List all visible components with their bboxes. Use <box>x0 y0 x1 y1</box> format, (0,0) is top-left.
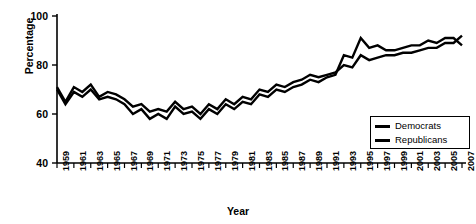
x-tick-label-1981: 1981 <box>247 151 257 171</box>
x-tick-label-2001: 2001 <box>415 151 425 171</box>
x-tick-label-1995: 1995 <box>365 151 375 171</box>
x-tick-label-2007: 2007 <box>466 151 476 171</box>
x-tick-label-1965: 1965 <box>112 151 122 171</box>
x-tick-label-1979: 1979 <box>230 151 240 171</box>
x-tick-label-1967: 1967 <box>129 151 139 171</box>
x-tick-label-1989: 1989 <box>314 151 324 171</box>
legend-label-democrats: Democrats <box>395 121 441 131</box>
x-tick-label-1973: 1973 <box>179 151 189 171</box>
chart-legend: Democrats Republicans <box>370 116 470 149</box>
x-tick-label-1971: 1971 <box>162 151 172 171</box>
x-tick-label-2005: 2005 <box>449 151 459 171</box>
x-tick-label-1987: 1987 <box>297 151 307 171</box>
x-tick-label-1983: 1983 <box>264 151 274 171</box>
legend-swatch-icon <box>375 125 390 128</box>
data-series-layer <box>57 36 462 119</box>
x-tick-label-1959: 1959 <box>61 151 71 171</box>
y-tick-label-40: 40 <box>22 157 48 169</box>
legend-swatch-icon <box>375 139 390 142</box>
x-tick-label-1969: 1969 <box>145 151 155 171</box>
x-tick-label-1997: 1997 <box>382 151 392 171</box>
legend-item-democrats: Democrats <box>375 119 465 133</box>
y-tick-label-60: 60 <box>22 108 48 120</box>
x-tick-label-1975: 1975 <box>196 151 206 171</box>
x-axis-title: Year <box>0 205 476 217</box>
x-tick-label-1985: 1985 <box>280 151 290 171</box>
legend-label-republicans: Republicans <box>395 135 447 145</box>
x-tick-label-1963: 1963 <box>95 151 105 171</box>
y-axis-title: Percentage <box>23 0 35 101</box>
line-chart: 100 80 60 40 195919611963196519671969197… <box>0 0 476 224</box>
plot-area <box>0 0 476 224</box>
series-line-republicans <box>57 38 462 119</box>
x-tick-label-1991: 1991 <box>331 151 341 171</box>
x-tick-label-1961: 1961 <box>78 151 88 171</box>
x-tick-label-1993: 1993 <box>348 151 358 171</box>
legend-item-republicans: Republicans <box>375 133 465 147</box>
x-tick-label-2003: 2003 <box>432 151 442 171</box>
x-tick-label-1999: 1999 <box>399 151 409 171</box>
x-tick-label-1977: 1977 <box>213 151 223 171</box>
